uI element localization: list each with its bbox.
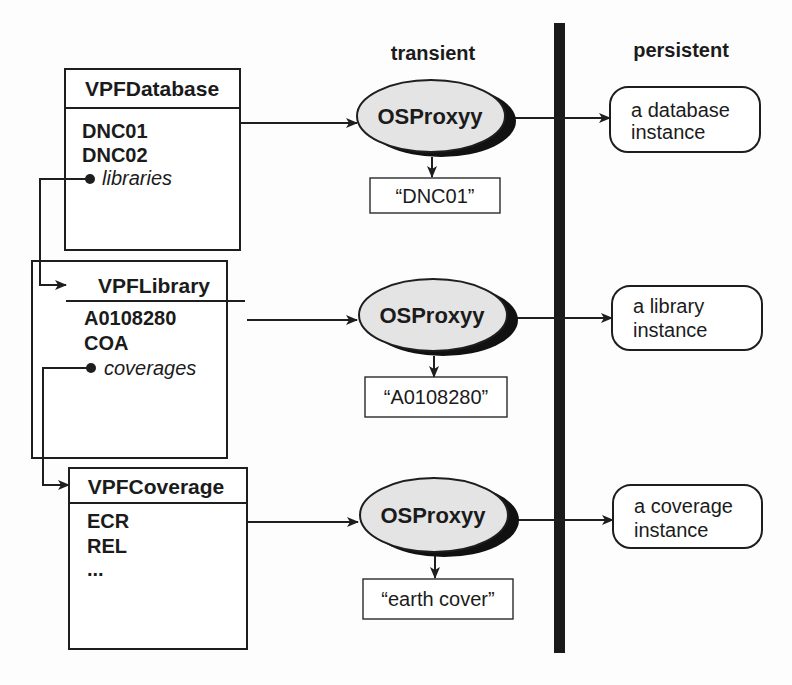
class-reference: coverages: [104, 357, 196, 379]
proxy-node-coverage: OSProxyy “earth cover”: [360, 478, 613, 619]
proxy-node-database: OSProxyy “DNC01”: [357, 80, 610, 213]
persistent-instance-library: a library instance: [612, 286, 762, 350]
proxy-key: “DNC01”: [396, 185, 475, 207]
class-attribute: ECR: [87, 510, 130, 532]
class-attribute: REL: [87, 535, 127, 557]
class-attribute: DNC02: [82, 144, 148, 166]
proxy-label: OSProxyy: [377, 104, 483, 129]
instance-label-line1: a library: [633, 295, 704, 317]
class-box-vpfdatabase: VPFDatabase DNC01 DNC02 libraries: [65, 69, 240, 250]
column-heading-persistent: persistent: [633, 39, 729, 61]
instance-label-line2: instance: [633, 319, 708, 341]
class-attribute: DNC01: [82, 120, 148, 142]
class-box-vpfcoverage: VPFCoverage ECR REL ...: [69, 468, 247, 649]
class-title: VPFDatabase: [85, 77, 219, 100]
class-title: VPFCoverage: [88, 475, 225, 498]
persistent-instance-coverage: a coverage instance: [613, 485, 762, 548]
proxy-key: “earth cover”: [381, 588, 494, 610]
diagram-svg: transient persistent VPFDatabase DNC01 D…: [0, 0, 792, 685]
persistent-instance-database: a database instance: [610, 87, 760, 152]
diagram-canvas: transient persistent VPFDatabase DNC01 D…: [0, 0, 792, 685]
column-heading-transient: transient: [391, 42, 476, 64]
proxy-node-library: OSProxyy “A0108280”: [359, 279, 612, 417]
class-attribute-ellipsis: ...: [87, 558, 104, 580]
instance-label-line2: instance: [631, 121, 706, 143]
class-attribute: COA: [84, 332, 128, 354]
class-attribute: A0108280: [84, 307, 176, 329]
class-reference: libraries: [102, 167, 172, 189]
instance-label-line1: a database: [631, 99, 730, 121]
instance-label-line1: a coverage: [634, 495, 733, 517]
proxy-label: OSProxyy: [380, 503, 486, 528]
proxy-key: “A0108280”: [384, 386, 489, 408]
proxy-label: OSProxyy: [379, 303, 485, 328]
instance-label-line2: instance: [634, 519, 709, 541]
class-title: VPFLibrary: [98, 274, 210, 297]
class-box-vpflibrary: VPFLibrary A0108280 COA coverages: [32, 261, 245, 458]
